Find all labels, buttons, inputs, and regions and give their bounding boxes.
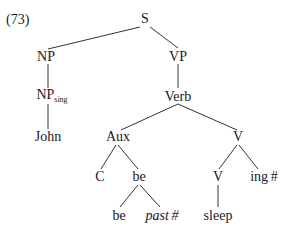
node-past: past #	[145, 208, 178, 224]
node-np: NP	[37, 49, 55, 65]
edge-v-v	[219, 145, 237, 169]
edge-verb-aux	[121, 104, 178, 130]
node-ing: ing #	[250, 169, 278, 185]
edge-s-vp	[150, 27, 178, 48]
node-v-upper: V	[233, 129, 243, 145]
edge-aux-be	[118, 145, 138, 169]
node-be-mid: be	[132, 169, 145, 185]
np-sing-subscript: sing	[54, 95, 67, 104]
edge-verb-v	[178, 104, 237, 130]
edge-be-be	[120, 185, 138, 207]
tree-edges	[0, 0, 290, 234]
edge-aux-c	[101, 145, 116, 169]
node-john: John	[35, 129, 61, 145]
node-aux: Aux	[106, 129, 130, 145]
node-be-leaf: be	[112, 208, 125, 224]
node-v-lower: V	[213, 169, 223, 185]
edge-be-past	[140, 185, 160, 207]
node-c: C	[95, 169, 104, 185]
np-sing-base: NP	[36, 87, 54, 102]
node-s: S	[141, 11, 149, 27]
edge-v-ing	[239, 145, 258, 169]
node-sleep: sleep	[204, 208, 233, 224]
node-vp: VP	[169, 49, 187, 65]
node-np-sing: NPsing	[36, 87, 67, 108]
edge-s-np	[48, 27, 140, 49]
example-number: (73)	[6, 12, 29, 28]
node-verb: Verb	[165, 89, 191, 105]
